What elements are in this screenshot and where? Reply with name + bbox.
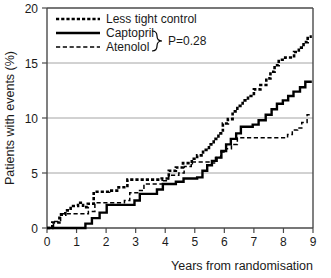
y-tick-label-0: 0 bbox=[31, 222, 38, 236]
legend-item-captopril: Captopril bbox=[106, 26, 154, 40]
x-tick-label-9: 9 bbox=[310, 235, 317, 249]
kaplan-meier-chart: 0123456789 05101520 Less tight control C… bbox=[0, 0, 331, 278]
y-tick-label-20: 20 bbox=[25, 2, 39, 16]
x-tick-label-7: 7 bbox=[251, 235, 258, 249]
x-axis-title: Years from randomisation bbox=[171, 259, 313, 273]
x-tick-label-6: 6 bbox=[221, 235, 228, 249]
x-tick-label-5: 5 bbox=[191, 235, 198, 249]
legend-item-less-tight-control: Less tight control bbox=[106, 12, 197, 26]
y-tick-label-10: 10 bbox=[25, 112, 39, 126]
chart-figure: 0123456789 05101520 Less tight control C… bbox=[0, 0, 331, 278]
y-axis-title: Patients with events (%) bbox=[3, 51, 17, 185]
x-tick-label-4: 4 bbox=[162, 235, 169, 249]
x-tick-label-3: 3 bbox=[132, 235, 139, 249]
y-tick-label-15: 15 bbox=[25, 57, 39, 71]
x-tick-label-8: 8 bbox=[280, 235, 287, 249]
x-tick-label-0: 0 bbox=[44, 235, 51, 249]
y-tick-label-5: 5 bbox=[31, 167, 38, 181]
x-tick-label-2: 2 bbox=[103, 235, 110, 249]
p-value-annotation: P=0.28 bbox=[168, 34, 207, 48]
x-tick-label-1: 1 bbox=[73, 235, 80, 249]
legend-item-atenolol: Atenolol bbox=[106, 40, 149, 54]
